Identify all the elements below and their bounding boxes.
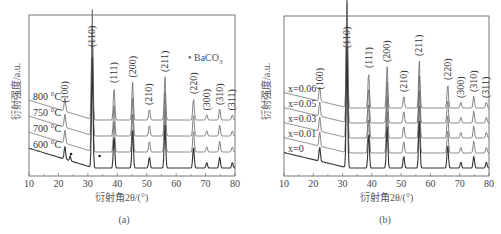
caption-b: (b) bbox=[365, 214, 405, 225]
chart-panel-b: 1020304050607080x=0.06x=0.05x=0.03x=0.01… bbox=[250, 0, 500, 234]
peak-label: (210) bbox=[143, 83, 155, 105]
series-label: 800 °C bbox=[33, 91, 61, 102]
x-tick-label: 60 bbox=[171, 178, 181, 189]
x-tick-label: 10 bbox=[24, 178, 34, 189]
x-tick-label: 50 bbox=[396, 178, 406, 189]
x-tick-label: 30 bbox=[83, 178, 93, 189]
x-tick-label: 70 bbox=[455, 178, 465, 189]
series-label: 750 °C bbox=[33, 107, 61, 118]
series-label: x=0.03 bbox=[288, 113, 316, 124]
peak-label: (100) bbox=[59, 81, 71, 103]
y-axis-label-b: 衍射强度/a.u. bbox=[258, 63, 273, 120]
legend-baco3-text: • BaCO bbox=[188, 52, 219, 63]
peak-label: (300) bbox=[455, 76, 467, 98]
series-label: x=0.06 bbox=[288, 83, 316, 94]
peak-label: (210) bbox=[398, 70, 410, 92]
x-tick-label: 80 bbox=[484, 178, 494, 189]
x-tick-label: 70 bbox=[201, 178, 211, 189]
series-label: 700 °C bbox=[33, 123, 61, 134]
peak-label: (300) bbox=[201, 89, 213, 111]
peak-label: (200) bbox=[381, 40, 393, 62]
x-axis-label-a: 衍射角2θ/(°) bbox=[95, 189, 148, 204]
peak-label: (310) bbox=[214, 83, 226, 105]
peak-label: (110) bbox=[86, 26, 98, 47]
baco3-marker bbox=[70, 153, 73, 156]
chart-panel-a: 1020304050607080800 °C750 °C700 °C600 °C… bbox=[0, 0, 250, 234]
series-label: x=0.01 bbox=[288, 128, 316, 139]
baco3-marker bbox=[98, 155, 101, 158]
x-tick-label: 10 bbox=[279, 178, 289, 189]
peak-label: (211) bbox=[413, 35, 425, 56]
x-tick-label: 20 bbox=[53, 178, 63, 189]
x-tick-label: 80 bbox=[230, 178, 240, 189]
y-axis-label-a: 衍射强度/a.u. bbox=[8, 63, 23, 120]
peak-label: (220) bbox=[442, 58, 454, 80]
peak-label: (220) bbox=[188, 72, 200, 94]
peak-label: (200) bbox=[127, 56, 139, 78]
peak-label: (211) bbox=[159, 51, 171, 72]
x-tick-label: 30 bbox=[338, 178, 348, 189]
x-tick-label: 40 bbox=[112, 178, 122, 189]
series-label: x=0.05 bbox=[288, 98, 316, 109]
legend-baco3-sub: 3 bbox=[219, 58, 223, 66]
peak-label: (110) bbox=[341, 27, 353, 48]
x-axis-label-b: 衍射角2θ/(°) bbox=[360, 189, 413, 204]
caption-a: (a) bbox=[104, 214, 144, 225]
x-tick-label: 50 bbox=[142, 178, 152, 189]
peak-label: (100) bbox=[314, 68, 326, 90]
x-tick-label: 20 bbox=[308, 178, 318, 189]
peak-label: (311) bbox=[480, 77, 492, 98]
series-label: x=0 bbox=[288, 143, 304, 154]
x-tick-label: 60 bbox=[425, 178, 435, 189]
peak-label: (311) bbox=[226, 89, 238, 110]
legend-baco3: • BaCO3 bbox=[188, 52, 223, 66]
series-label: 600 °C bbox=[33, 139, 61, 150]
peak-label: (310) bbox=[468, 70, 480, 92]
peak-label: (111) bbox=[108, 62, 120, 83]
x-tick-label: 40 bbox=[367, 178, 377, 189]
peak-label: (111) bbox=[363, 47, 375, 68]
